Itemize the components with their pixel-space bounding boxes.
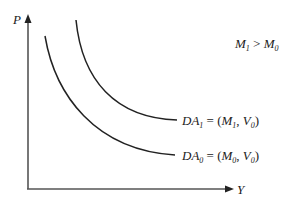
da1-curve: [76, 20, 177, 120]
da0-v-var: V: [243, 148, 251, 163]
x-axis-arrowhead-icon: [225, 186, 234, 193]
annotation-relation: >: [250, 36, 264, 51]
da0-eq: = (: [203, 148, 221, 163]
da1-label: DA1 = (M1, V0): [182, 114, 259, 130]
y-axis-arrowhead-icon: [25, 14, 32, 23]
annotation-left-var: M: [235, 36, 246, 51]
da1-v-var: V: [243, 113, 251, 128]
ad-diagram: [0, 0, 288, 203]
da1-name: DA: [182, 113, 199, 128]
da0-name: DA: [182, 148, 199, 163]
da1-close: ): [255, 113, 259, 128]
annotation-right-sub: 0: [275, 44, 279, 53]
y-axis-label: P: [13, 13, 21, 26]
da1-eq: = (: [203, 113, 221, 128]
annotation-right-var: M: [264, 36, 275, 51]
money-comparison-annotation: M1 > M0: [235, 37, 279, 53]
da0-m-var: M: [222, 148, 233, 163]
da0-label: DA0 = (M0, V0): [182, 149, 259, 165]
da1-m-var: M: [222, 113, 233, 128]
x-axis-label: Y: [237, 183, 244, 196]
da0-close: ): [255, 148, 259, 163]
